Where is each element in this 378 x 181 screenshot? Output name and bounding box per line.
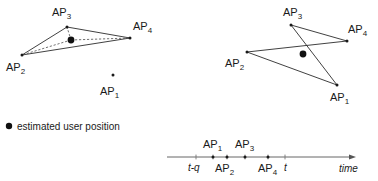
node-dot-ap2 [21,54,24,57]
right-diagram-outline [247,25,347,85]
node-dot-ap3 [290,24,293,27]
node-label-ap1: AP1 [330,91,350,106]
node-dot-ap1 [112,74,115,77]
node-label-ap2: AP2 [225,57,245,72]
tick-label-ap4: AP4 [258,162,278,177]
time-axis-label: time [339,163,358,174]
left-diagram-triangle: AP3AP4AP2AP1 [6,6,153,100]
diagonal-to-ap2 [22,40,71,55]
tick-label-ap1: AP1 [203,138,223,153]
figure-canvas: AP3AP4AP2AP1 AP3AP4AP2AP1 estimated user… [0,0,378,181]
figure-root: AP3AP4AP2AP1 AP3AP4AP2AP1 estimated user… [0,0,378,181]
left-diagram-vertices [21,26,132,77]
right-diagram-labels: AP3AP4AP2AP1 [225,6,368,106]
node-label-ap1: AP1 [100,85,120,100]
left-diagram-outline [22,27,130,55]
node-label-ap3: AP3 [52,6,72,21]
node-dot-ap4 [129,37,132,40]
node-dot-ap3 [66,26,69,29]
tick-label-t: t [284,162,288,173]
estimated-user-position-dot-right [300,51,307,58]
legend-label: estimated user position [17,121,120,132]
tick-label-ap2: AP2 [215,162,235,177]
node-label-ap2: AP2 [6,61,26,76]
tick-dot-ap2 [226,156,229,159]
legend-marker-icon [6,123,12,129]
node-label-ap4: AP4 [348,23,368,38]
time-axis-arrowhead [349,154,356,159]
node-dot-ap4 [346,40,349,43]
tick-dot-ap4 [267,156,270,159]
right-diagram-quadrilateral: AP3AP4AP2AP1 [225,6,368,106]
node-label-ap4: AP4 [133,20,153,35]
time-axis-tick-labels: t-qAP1AP2AP3AP4t [188,138,288,177]
tick-dot-ap1 [212,156,215,159]
node-dot-ap1 [336,84,339,87]
node-label-ap3: AP3 [283,6,303,21]
node-dot-ap2 [246,51,249,54]
legend: estimated user position [6,121,120,132]
time-axis: t-qAP1AP2AP3AP4t time [167,138,358,177]
tick-label-t-minus-q: t-q [188,162,200,173]
tick-label-ap3: AP3 [235,138,255,153]
tick-dot-ap3 [244,156,247,159]
estimated-user-position-dot-left [68,37,75,44]
